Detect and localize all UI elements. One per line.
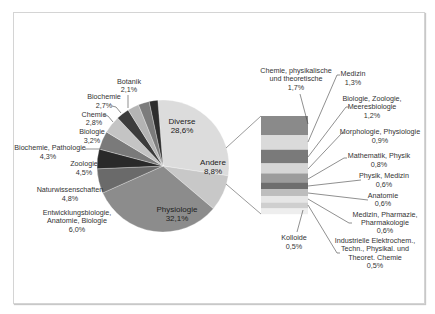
- bar-segment-2: [261, 135, 308, 150]
- label-biozoo-pct: 1,2%: [364, 111, 381, 120]
- label-mathphys-pct: 0,8%: [371, 160, 388, 169]
- label-morph-pct: 0,9%: [372, 136, 389, 145]
- label-naturwissenschaften-pct: 4,8%: [62, 194, 79, 203]
- label-entwicklungsbiologie-pct: 6,0%: [69, 225, 86, 234]
- bar-segment-7: [261, 189, 308, 196]
- leader-morph: [308, 133, 345, 169]
- label-andere-pct: 8,8%: [204, 167, 222, 176]
- bar-segment-1: [261, 116, 308, 135]
- bar-segment-5: [261, 173, 308, 182]
- label-kolloide-pct: 0,5%: [286, 242, 303, 251]
- bar-segment-8: [261, 196, 308, 203]
- secondary-stacked-bar: [261, 116, 308, 214]
- leader-indus: [308, 205, 340, 253]
- label-biozoo-l2: Meeresbiologie: [348, 102, 397, 111]
- leader-medizin: [308, 75, 340, 142]
- connector-line-bottom: [226, 184, 261, 214]
- label-zoologie-name: Zoologie: [70, 159, 98, 168]
- label-kolloide-name: Kolloide: [281, 233, 307, 242]
- label-indus-pct: 0,5%: [367, 261, 384, 270]
- leader-medpharm: [308, 199, 352, 223]
- label-andere-name: Andere: [200, 158, 226, 167]
- pie-of-bar-chart: Diverse 28,6% Andere 8,8% Physiologie 32…: [0, 0, 435, 314]
- label-biochemie-pathologie-pct: 4,3%: [40, 152, 57, 161]
- label-biologie-name: Biologie: [79, 127, 105, 136]
- label-biochemie-name: Biochemie: [87, 92, 121, 101]
- leader-anatomie: [308, 193, 368, 200]
- connector-line-top: [226, 116, 261, 148]
- bar-segment-4: [261, 163, 308, 173]
- leader-biochemie: [112, 106, 121, 113]
- label-entwicklungsbiologie-l2: Anatomie, Biologie: [47, 216, 107, 225]
- label-diverse-pct: 28,6%: [171, 126, 194, 135]
- label-biologie-pct: 3,2%: [84, 136, 101, 145]
- label-naturwissenschaften-name: Naturwissenschaften: [37, 185, 104, 194]
- leader-physmed: [308, 180, 361, 186]
- label-medpharm-pct: 0,6%: [377, 226, 394, 235]
- bar-segment-9: [261, 203, 308, 209]
- label-physiologie-name: Physiologie: [157, 205, 198, 214]
- label-chemphys-l2: und theoretische: [269, 74, 322, 83]
- bar-segment-3: [261, 150, 308, 164]
- bar-segment-6: [261, 182, 308, 189]
- label-biochemie-pct: 2,7%: [96, 101, 113, 110]
- label-chemphys-pct: 1,7%: [288, 83, 305, 92]
- bar-segment-10: [261, 208, 308, 214]
- label-diverse-name: Diverse: [168, 117, 196, 126]
- label-chemie-pct: 2,8%: [86, 118, 103, 127]
- label-medizin-pct: 1,3%: [345, 78, 362, 87]
- label-physmed-name: Physik, Medizin: [359, 171, 409, 180]
- label-indus-l2: Techn., Physikal. und: [341, 244, 409, 253]
- label-medizin-name: Medizin: [341, 69, 366, 78]
- label-zoologie-pct: 4,5%: [76, 168, 93, 177]
- label-mathphys-name: Mathematik, Physik: [348, 151, 411, 160]
- leader-mathphys: [308, 158, 347, 179]
- label-physmed-pct: 0,6%: [376, 180, 393, 189]
- label-biochemie-pathologie-name: Biochemie, Pathologie: [14, 143, 86, 152]
- label-morph-name: Morphologie, Physiologie: [340, 127, 420, 136]
- label-physiologie-pct: 32,1%: [166, 214, 189, 223]
- label-botanik-pct: 2,1%: [121, 85, 138, 94]
- label-anatomie-pct: 0,6%: [375, 199, 392, 208]
